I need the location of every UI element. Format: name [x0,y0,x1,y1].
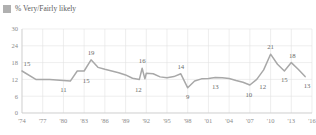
legend-label: % Very/Fairly likely [15,5,76,13]
data-point-label: 16 [139,57,146,64]
x-tick-label: '89 [122,117,130,124]
x-tick-label: '01 [205,117,213,124]
x-tick-label: '95 [163,117,171,124]
data-point-label: 12 [259,83,266,90]
chart-container: % Very/Fairly likely 0612182430 '74'77'8… [0,0,316,135]
y-tick-label: 30 [12,25,19,32]
data-point-label: 19 [88,49,95,56]
y-axis-ticks: 0612182430 [12,25,19,116]
y-tick-label: 0 [15,109,18,116]
x-tick-label: '16 [308,117,316,124]
x-tick-label: '74 [18,117,26,124]
gridlines [22,29,312,113]
x-tick-label: '86 [101,117,109,124]
data-point-label: 15 [83,77,90,84]
x-tick-label: '83 [80,117,88,124]
data-point-label: 12 [135,86,142,93]
data-point-label: 11 [60,86,67,93]
x-tick-label: '04 [225,117,233,124]
data-point-label: 9 [186,93,190,100]
x-tick-label: '98 [184,117,192,124]
x-tick-label: '80 [60,117,68,124]
data-point-label: 13 [304,82,311,89]
plot-area: 0612182430 '74'77'80'83'86'89'92'95'98'0… [0,18,316,135]
data-point-label: 15 [24,60,31,67]
x-tick-label: '92 [142,117,150,124]
x-tick-label: '13 [287,117,295,124]
y-tick-label: 6 [15,93,19,100]
y-tick-label: 12 [12,76,19,83]
data-point-label: 15 [281,76,288,83]
data-point-label: 13 [212,83,219,90]
x-tick-label: '77 [39,117,47,124]
data-point-label: 14 [177,63,184,70]
x-axis-ticks: '74'77'80'83'86'89'92'95'98'01'04'07'10'… [18,117,316,124]
x-tick-label: '07 [246,117,254,124]
x-tick-label: '10 [267,117,275,124]
y-tick-label: 18 [12,59,19,66]
data-point-label: 10 [245,91,252,98]
chart-legend: % Very/Fairly likely [3,3,76,15]
line-chart-svg: 0612182430 '74'77'80'83'86'89'92'95'98'0… [0,18,316,135]
y-tick-label: 24 [12,42,19,49]
square-swatch-icon [3,5,11,13]
data-point-labels: 15111915161214913101221151813 [24,43,311,100]
data-point-label: 21 [267,43,274,50]
data-point-label: 18 [289,52,296,59]
